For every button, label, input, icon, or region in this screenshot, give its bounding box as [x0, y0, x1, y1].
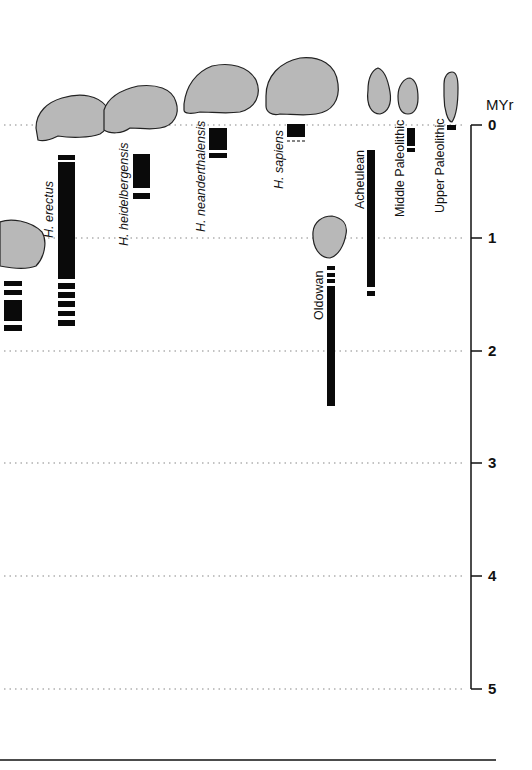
- bars-h-erectus: [58, 155, 75, 326]
- label-h-erectus: H. erectus: [42, 181, 56, 238]
- label-upper-paleolithic: Upper Paleolithic: [433, 119, 447, 214]
- label-acheulean: Acheulean: [353, 150, 367, 209]
- axis-unit-label: MYr: [486, 96, 514, 113]
- bars-early-hominin: [4, 281, 22, 331]
- label-h-heidelbergensis: H. heidelbergensis: [117, 142, 131, 246]
- tick-label-3: 3: [488, 454, 496, 471]
- bars-h-sapiens: [287, 124, 305, 141]
- bars-h-neanderthalensis: [209, 128, 227, 158]
- bars-middle-paleolithic: [407, 128, 415, 152]
- tick-label-4: 4: [488, 567, 496, 584]
- skull-heidelbergensis-icon: [104, 86, 177, 133]
- blade-upper-paleolithic-icon: [444, 72, 458, 122]
- handaxe-acheulean-icon: [368, 68, 391, 114]
- bars-acheulean: [367, 150, 375, 296]
- range-bars: [4, 124, 456, 406]
- tick-label-0: 0: [488, 116, 496, 133]
- skull-erectus-icon: [36, 95, 109, 141]
- flake-middle-paleolithic-icon: [398, 78, 418, 114]
- label-h-sapiens: H. sapiens: [272, 130, 286, 189]
- tick-label-1: 1: [488, 229, 496, 246]
- skull-early-hominin-icon: [0, 220, 45, 268]
- bars-oldowan: [327, 266, 335, 406]
- tick-label-2: 2: [488, 342, 496, 359]
- label-h-neanderthalensis: H. neanderthalensis: [194, 121, 208, 232]
- y-axis: [471, 125, 482, 689]
- bars-upper-paleolithic: [447, 125, 456, 130]
- skull-sapiens-icon: [266, 58, 338, 115]
- hominin-timeline-chart: [0, 0, 532, 770]
- label-oldowan: Oldowan: [312, 271, 326, 320]
- tick-label-5: 5: [488, 680, 496, 697]
- skull-neanderthalensis-icon: [184, 65, 258, 114]
- chopper-oldowan-icon: [313, 216, 346, 258]
- label-middle-paleolithic: Middle Paleolithic: [393, 120, 407, 217]
- bars-h-heidelbergensis: [133, 154, 150, 199]
